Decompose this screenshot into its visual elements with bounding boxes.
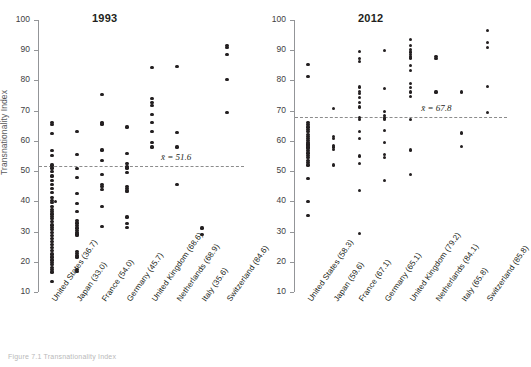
y-tick-label: 100	[4, 14, 30, 24]
y-tick-label: 90	[4, 44, 30, 54]
data-point	[125, 190, 128, 193]
y-tick-label: 10	[4, 286, 30, 296]
y-tick-label: 40	[4, 195, 30, 205]
data-point	[383, 118, 386, 121]
data-point	[486, 29, 489, 32]
data-point	[75, 176, 78, 179]
data-point	[100, 122, 103, 125]
data-point	[460, 131, 463, 134]
data-point	[358, 50, 361, 53]
data-point	[486, 41, 489, 44]
x-category-label: Switzerland (85.8)	[485, 244, 530, 303]
data-point	[486, 85, 489, 88]
y-tick-label: 90	[260, 44, 286, 54]
data-point	[358, 96, 361, 99]
data-point	[358, 101, 361, 104]
data-point	[150, 141, 153, 144]
data-point	[54, 200, 57, 203]
data-point	[75, 167, 78, 170]
y-tick-label: 20	[260, 256, 286, 266]
data-point	[75, 153, 78, 156]
data-point	[100, 188, 103, 191]
data-point	[409, 95, 412, 98]
y-tick	[290, 171, 294, 172]
data-point	[125, 152, 128, 155]
data-point	[75, 130, 78, 133]
mean-line	[39, 166, 244, 167]
data-point	[409, 38, 412, 41]
data-point	[150, 130, 153, 133]
y-axis-title: Transnationality Index	[0, 90, 9, 175]
y-tick-label: 100	[260, 14, 286, 24]
data-point	[358, 130, 361, 133]
data-point	[150, 121, 153, 124]
data-point	[358, 118, 361, 121]
data-point	[50, 123, 53, 126]
data-point	[486, 46, 489, 49]
y-tick	[34, 20, 38, 21]
mean-label: x̄ = 51.6	[161, 152, 191, 162]
data-point	[306, 200, 309, 203]
data-point	[306, 177, 309, 180]
data-point	[150, 104, 153, 107]
data-point	[50, 149, 53, 152]
data-point	[383, 49, 386, 52]
data-point	[100, 205, 103, 208]
data-point	[332, 107, 335, 110]
data-point	[306, 63, 309, 66]
data-point	[409, 82, 412, 85]
data-point	[332, 148, 335, 151]
figure-caption: Figure 7.1 Transnationality Index	[8, 353, 116, 360]
data-point	[409, 86, 412, 89]
data-point	[75, 202, 78, 205]
y-tick	[290, 111, 294, 112]
data-point	[486, 111, 489, 114]
y-tick	[34, 141, 38, 142]
data-point	[50, 187, 53, 190]
data-point	[409, 56, 412, 59]
data-point	[358, 60, 361, 63]
data-point	[50, 280, 53, 283]
data-point	[225, 78, 228, 81]
y-tick	[290, 201, 294, 202]
data-point	[50, 132, 53, 135]
data-point	[409, 64, 412, 67]
data-point	[434, 90, 437, 93]
data-point	[50, 183, 53, 186]
data-point	[358, 85, 361, 88]
data-point	[306, 214, 309, 217]
data-point	[75, 234, 78, 237]
data-point	[175, 145, 178, 148]
data-point	[125, 215, 128, 218]
data-point	[150, 145, 153, 148]
data-point	[225, 53, 228, 56]
data-point	[100, 225, 103, 228]
data-point	[358, 154, 361, 157]
data-point	[358, 105, 361, 108]
data-point	[332, 137, 335, 140]
y-tick	[34, 262, 38, 263]
data-point	[100, 148, 103, 151]
data-point	[409, 173, 412, 176]
data-point	[50, 179, 53, 182]
data-point	[75, 210, 78, 213]
data-point	[358, 232, 361, 235]
y-tick-label: 50	[260, 165, 286, 175]
data-point	[200, 233, 203, 236]
y-tick	[34, 171, 38, 172]
data-point	[409, 69, 412, 72]
data-point	[50, 201, 53, 204]
data-point	[306, 163, 309, 166]
data-point	[383, 141, 386, 144]
panel-title: 1993	[92, 12, 117, 24]
data-point	[175, 183, 178, 186]
data-point	[125, 222, 128, 225]
data-point	[150, 97, 153, 100]
y-tick-label: 70	[260, 105, 286, 115]
data-point	[175, 131, 178, 134]
y-tick	[290, 50, 294, 51]
y-tick-label: 60	[260, 135, 286, 145]
data-point	[383, 110, 386, 113]
y-tick-label: 80	[4, 74, 30, 84]
